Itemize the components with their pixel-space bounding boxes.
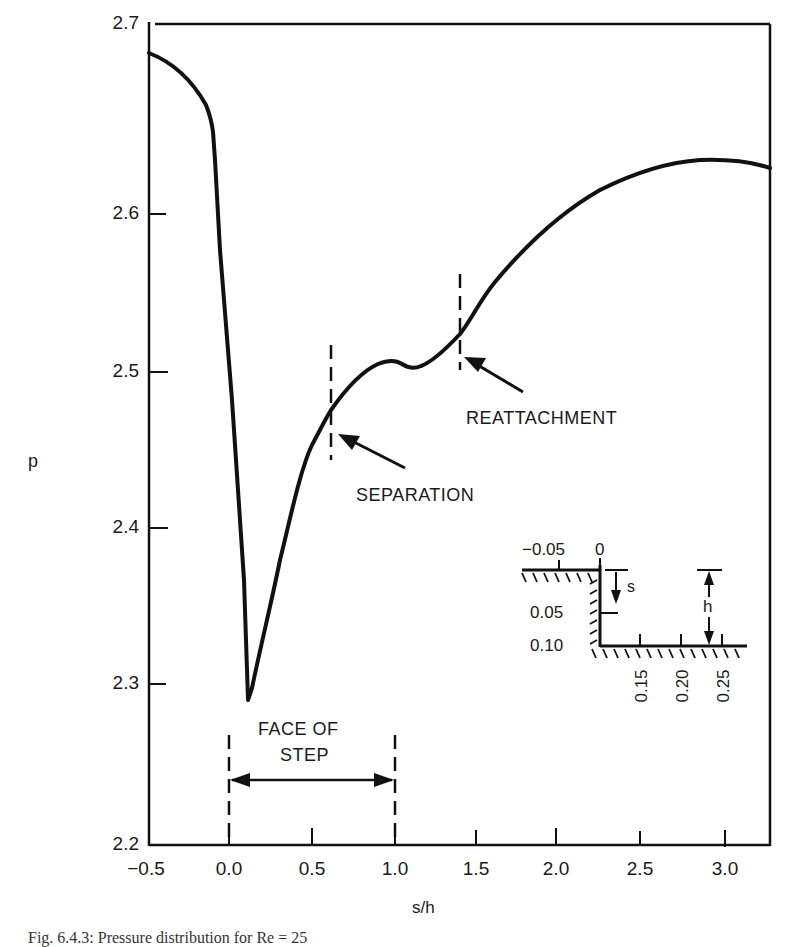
y-tick-label: 2.5	[99, 360, 139, 382]
inset-top-label-left: −0.05	[522, 540, 565, 560]
x-tick-label: 2.0	[526, 858, 586, 880]
inset-top-label-right: 0	[595, 540, 604, 560]
face-of-step-label-line1: FACE OF	[258, 719, 339, 740]
inset-bottom-label: 0.20	[673, 666, 693, 706]
x-tick-label: 0.0	[199, 858, 259, 880]
y-tick-marks	[149, 214, 168, 684]
reattachment-label: REATTACHMENT	[466, 408, 617, 429]
inset-bottom-label: 0.15	[632, 666, 652, 706]
x-tick-label: 2.5	[610, 858, 670, 880]
face-of-step-arrow	[230, 773, 394, 787]
x-tick-label: 1.5	[446, 858, 506, 880]
x-axis-label: s/h	[412, 898, 435, 918]
pressure-curve	[149, 53, 770, 700]
x-tick-label: 1.0	[365, 858, 425, 880]
inset-bottom-label: 0.25	[714, 666, 734, 706]
figure-caption: Fig. 6.4.3: Pressure distribution for Re…	[28, 929, 307, 947]
inset-left-label-1: 0.05	[530, 603, 563, 623]
face-of-step-label-line2: STEP	[280, 745, 329, 766]
y-tick-label: 2.7	[99, 12, 139, 34]
reattachment-arrow	[464, 357, 523, 392]
x-tick-label: −0.5	[116, 858, 176, 880]
x-tick-label: 3.0	[695, 858, 755, 880]
inset-s-label: s	[627, 578, 635, 596]
x-tick-label: 0.5	[282, 858, 342, 880]
y-axis-label: p	[28, 451, 38, 472]
y-tick-label: 2.6	[99, 202, 139, 224]
inset-h-label: h	[703, 597, 712, 617]
y-tick-label: 2.4	[99, 516, 139, 538]
y-tick-label: 2.3	[99, 672, 139, 694]
separation-label: SEPARATION	[356, 485, 474, 506]
y-tick-label: 2.2	[99, 833, 139, 855]
separation-arrow	[338, 434, 405, 468]
plot-frame	[149, 22, 770, 846]
inset-left-label-2: 0.10	[530, 636, 563, 656]
